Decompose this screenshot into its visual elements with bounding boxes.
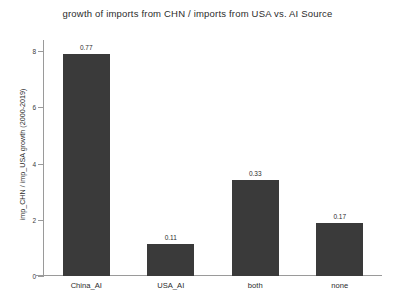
x-tick-label: none: [298, 281, 383, 290]
bar-group: 0.17: [316, 40, 363, 276]
y-tick-label: 2: [32, 216, 36, 223]
x-tick-label: both: [213, 281, 298, 290]
y-tick-mark: [38, 276, 44, 277]
y-tick-label: 8: [32, 48, 36, 55]
bar-value-label: 0.33: [232, 170, 279, 177]
y-tick-mark: [38, 220, 44, 221]
y-axis-label: imp_CHN / imp_USA growth (2000-2019): [18, 70, 27, 240]
bar[interactable]: [316, 223, 363, 276]
bar-value-label: 0.11: [147, 234, 194, 241]
y-tick-mark: [38, 164, 44, 165]
y-tick-mark: [38, 51, 44, 52]
chart-title: growth of imports from CHN / imports fro…: [0, 8, 395, 19]
y-tick-label: 0: [32, 273, 36, 280]
bar-group: 0.11: [147, 40, 194, 276]
bar-value-label: 0.17: [316, 213, 363, 220]
bar[interactable]: [232, 180, 279, 276]
x-tick-label: China_AI: [44, 281, 129, 290]
bar[interactable]: [63, 54, 110, 276]
bar-group: 0.33: [232, 40, 279, 276]
plot-area: 024680.770.110.330.17: [44, 40, 382, 276]
x-tick-label: USA_AI: [129, 281, 214, 290]
y-tick-label: 4: [32, 160, 36, 167]
bar-chart-figure: growth of imports from CHN / imports fro…: [0, 0, 395, 305]
bar-value-label: 0.77: [63, 44, 110, 51]
bar[interactable]: [147, 244, 194, 276]
bar-group: 0.77: [63, 40, 110, 276]
y-tick-mark: [38, 107, 44, 108]
y-tick-label: 6: [32, 104, 36, 111]
